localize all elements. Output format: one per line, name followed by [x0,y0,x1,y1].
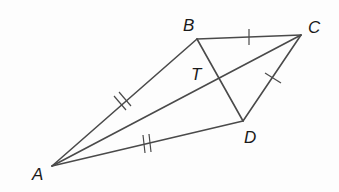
kite-figure [0,0,339,192]
label-vertex-C: C [308,19,320,36]
segment-AB [52,39,197,166]
label-vertex-A: A [32,166,43,183]
kite-diagram: B C T D A [0,0,339,192]
congruence-mark-CD [265,73,281,83]
diagonal-AC [52,35,301,166]
diagonal-BD [197,39,243,121]
label-point-T: T [191,66,201,83]
congruence-mark-AB [114,92,131,110]
segment-AD [52,121,243,166]
label-vertex-B: B [183,17,194,34]
label-vertex-D: D [244,129,256,146]
